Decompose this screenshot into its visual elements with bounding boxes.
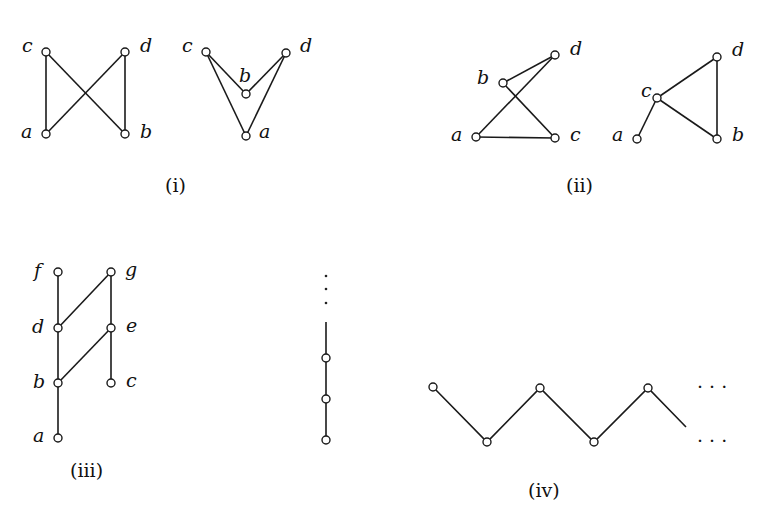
node-b <box>499 79 507 87</box>
node-d <box>121 48 129 56</box>
edge-b-e <box>58 328 111 383</box>
label-a: a <box>259 120 270 142</box>
caption-ii: (ii) <box>566 174 593 196</box>
node-a <box>472 133 480 141</box>
edge-d-g <box>58 272 111 328</box>
label-a: a <box>451 123 462 145</box>
label-d: d <box>570 37 582 59</box>
label-d: d <box>140 34 152 56</box>
zigzag-node-top <box>429 383 437 391</box>
node-b <box>121 130 129 138</box>
label-c: c <box>570 123 581 145</box>
figure-i-right-graph: c d b a <box>182 34 312 142</box>
label-c: c <box>641 79 652 101</box>
label-e: e <box>126 314 137 336</box>
label-d: d <box>732 38 744 60</box>
ellipsis-dot <box>325 288 328 291</box>
label-c: c <box>22 34 33 56</box>
edge-a-c <box>476 137 555 138</box>
label-a: a <box>21 120 32 142</box>
node-b <box>713 135 721 143</box>
node-a <box>42 130 50 138</box>
hasse-diagrams-figure: c d a b c d b a (i) b d a c <box>0 0 768 518</box>
infinite-chain-graph <box>322 275 330 444</box>
chain-node <box>322 354 330 362</box>
node-c <box>202 48 210 56</box>
ellipsis-bottom: · · · <box>697 429 727 451</box>
caption-iii: (iii) <box>70 459 103 481</box>
label-a: a <box>612 123 623 145</box>
label-g: g <box>125 258 137 280</box>
label-b: b <box>239 64 251 86</box>
node-a <box>54 434 62 442</box>
label-b: b <box>732 123 744 145</box>
zigzag-node-top <box>644 384 652 392</box>
caption-i: (i) <box>165 174 186 196</box>
node-c <box>551 134 559 142</box>
node-f <box>54 268 62 276</box>
ellipsis-top: · · · <box>697 375 727 397</box>
label-a: a <box>33 424 44 446</box>
figure-i-left-graph: c d a b <box>21 34 152 142</box>
node-a <box>242 132 250 140</box>
zigzag-node-top <box>536 384 544 392</box>
label-b: b <box>477 66 489 88</box>
chain-node <box>322 395 330 403</box>
label-b: b <box>140 120 152 142</box>
edge-a-c <box>637 98 657 139</box>
node-g <box>107 268 115 276</box>
zigzag-node-bottom <box>590 438 598 446</box>
label-d: d <box>300 34 312 56</box>
zigzag-node-bottom <box>483 438 491 446</box>
node-d <box>54 324 62 332</box>
label-f: f <box>32 259 44 281</box>
node-c <box>42 48 50 56</box>
node-b <box>242 90 250 98</box>
ellipsis-dot <box>325 275 328 278</box>
label-b: b <box>33 370 45 392</box>
edge-b-c <box>503 83 555 138</box>
figure-ii-right-graph: c d a b <box>612 38 744 145</box>
node-e <box>107 324 115 332</box>
label-c: c <box>182 34 193 56</box>
caption-iv: (iv) <box>528 479 560 501</box>
edge-b-d <box>246 53 286 94</box>
edge-c-b <box>657 98 717 139</box>
node-d <box>282 49 290 57</box>
zigzag-edges <box>433 387 686 442</box>
figure-ii-left-graph: b d a c <box>451 37 582 145</box>
node-c <box>107 379 115 387</box>
edge-c-d <box>657 57 717 98</box>
node-d <box>551 51 559 59</box>
chain-node <box>322 436 330 444</box>
node-c <box>653 94 661 102</box>
edge-b-d <box>503 55 555 83</box>
node-a <box>633 135 641 143</box>
label-c: c <box>126 369 137 391</box>
figure-iii-graph: f g d e b c a <box>32 258 137 446</box>
node-d <box>713 53 721 61</box>
label-d: d <box>32 315 44 337</box>
node-b <box>54 379 62 387</box>
figure-iv-zigzag-graph: · · · · · · <box>429 375 727 451</box>
ellipsis-dot <box>325 302 328 305</box>
